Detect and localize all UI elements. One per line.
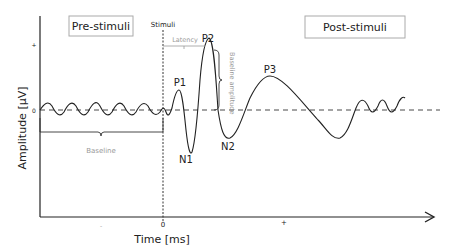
baseline-amplitude-bracket (214, 50, 222, 110)
baseline-label: Baseline (86, 147, 116, 155)
erp-waveform (40, 38, 405, 153)
x-tick-zero: 0 (161, 221, 165, 229)
baseline-amplitude-label: Baseline amplitude (228, 52, 236, 114)
peak-label-n2: N2 (221, 141, 235, 152)
pre-stimuli-label: Pre-stimuli (72, 20, 130, 33)
y-tick-zero: 0 (32, 107, 36, 114)
peak-label-p3: P3 (264, 64, 276, 75)
y-tick-plus: + (31, 41, 36, 48)
stimuli-label: Stimuli (151, 21, 175, 29)
baseline-bracket (40, 118, 163, 136)
x-tick-plus: + (281, 219, 287, 227)
peak-label-p1: P1 (174, 77, 186, 88)
erp-diagram: Pre-stimuli Post-stimuli Stimuli P1 N1 P… (0, 0, 451, 250)
latency-label: Latency (172, 36, 198, 44)
post-stimuli-label: Post-stimuli (323, 21, 387, 34)
x-tick-minus: - (100, 222, 102, 229)
y-axis-label: Amplitude [µV] (16, 87, 29, 170)
peak-label-p2: P2 (202, 33, 214, 44)
x-axis-label: Time [ms] (133, 233, 189, 246)
peak-label-n1: N1 (179, 154, 193, 165)
latency-bracket (163, 46, 205, 49)
